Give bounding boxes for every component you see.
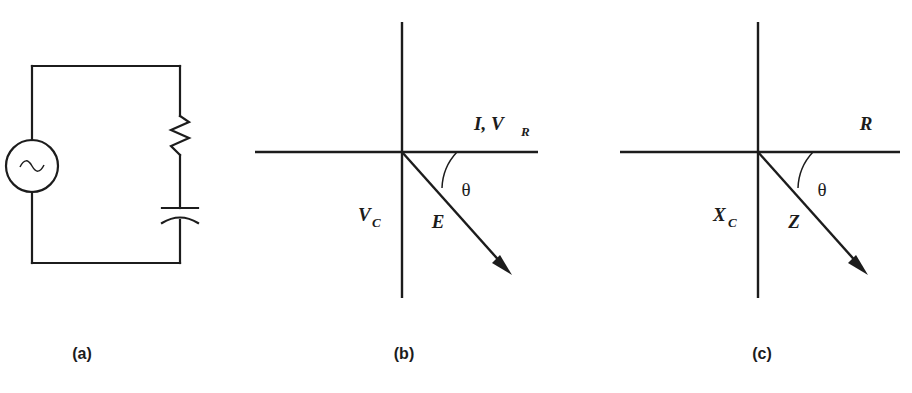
angle-arc-c <box>798 152 813 188</box>
angle-label-c: θ <box>817 179 826 200</box>
caption-panel-c: (c) <box>752 345 772 362</box>
vector-z-arrowhead <box>848 255 868 275</box>
axis-label-b-vertical: V <box>358 204 372 225</box>
resistor-symbol <box>171 116 189 155</box>
axis-label-c-horizontal: R <box>859 113 873 134</box>
axis-label-c-vertical: X <box>712 204 727 225</box>
panel-b-phasor: I, V R V C θ E (b) <box>255 22 538 362</box>
caption-panel-b: (b) <box>394 345 414 362</box>
figure-canvas: (a) I, V R V C θ E (b) <box>0 0 912 393</box>
vector-label-b: E <box>431 211 445 232</box>
axis-label-c-vertical-subscript: C <box>728 215 737 230</box>
axis-label-b-vertical-subscript: C <box>372 215 381 230</box>
vector-e-arrowhead <box>492 255 512 275</box>
vector-e-line <box>402 152 503 265</box>
panel-a-circuit: (a) <box>6 66 198 362</box>
ac-source-sine-icon <box>20 161 44 171</box>
angle-label-b: θ <box>461 179 470 200</box>
figure-root: (a) I, V R V C θ E (b) <box>0 0 912 393</box>
axis-label-b-horizontal: I, V <box>473 113 505 134</box>
axis-label-b-horizontal-subscript: R <box>520 124 530 139</box>
vector-label-c: Z <box>787 211 800 232</box>
vector-z-line <box>758 152 859 265</box>
caption-panel-a: (a) <box>72 345 92 362</box>
panel-c-impedance: R X C θ Z (c) <box>620 22 900 362</box>
angle-arc-b <box>442 152 457 188</box>
